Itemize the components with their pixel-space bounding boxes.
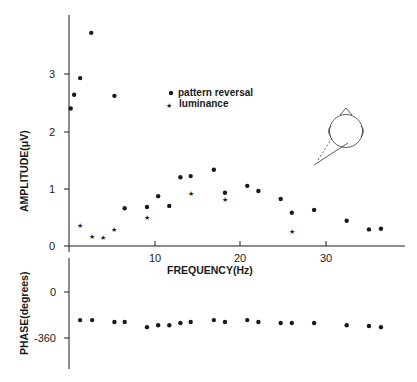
pattern-reversal-point	[223, 191, 227, 195]
x-tick-10: 10	[149, 252, 161, 264]
amp-tick-3: 3	[49, 68, 55, 80]
pattern-reversal-point	[256, 189, 260, 193]
head-electrode-diagram-icon	[314, 108, 364, 165]
phase-point	[278, 321, 282, 325]
pattern-reversal-point	[78, 76, 82, 80]
pattern-reversal-point	[156, 194, 160, 198]
luminance-point: ★	[111, 226, 117, 233]
pattern-reversal-point	[167, 204, 171, 208]
phase-point	[178, 321, 182, 325]
luminance-point: ★	[144, 214, 150, 221]
phase-point	[379, 325, 383, 329]
amp-tick-2: 2	[49, 126, 55, 138]
pattern-reversal-point	[367, 227, 371, 231]
pattern-reversal-point	[278, 197, 282, 201]
pattern-reversal-point	[89, 31, 93, 35]
luminance-point: ★	[188, 190, 194, 197]
pattern-reversal-point	[212, 168, 216, 172]
phase-point	[123, 320, 127, 324]
amplitude-axes	[64, 15, 405, 252]
pattern-reversal-point	[312, 208, 316, 212]
phase-point	[188, 320, 192, 324]
phase-point	[312, 321, 316, 325]
phase-points	[78, 318, 383, 329]
amplitude-y-axis-label: AMPLITUDE(μV)	[18, 130, 30, 212]
phase-point	[156, 323, 160, 327]
pattern-reversal-point	[123, 206, 127, 210]
phase-point	[212, 318, 216, 322]
legend-dot-icon	[169, 91, 173, 95]
phase-point	[256, 320, 260, 324]
luminance-point: ★	[77, 222, 83, 229]
pattern-reversal-point	[344, 219, 348, 223]
phase-point	[245, 318, 249, 322]
phase-y-axis-label: PHASE(degrees)	[18, 272, 30, 355]
amp-tick-1: 1	[49, 183, 55, 195]
amplitude-points: ★★★★★★★★	[69, 31, 384, 242]
phase-point	[90, 318, 94, 322]
pattern-reversal-point	[379, 227, 383, 231]
pattern-reversal-point	[178, 175, 182, 179]
x-tick-20: 20	[234, 252, 246, 264]
luminance-point: ★	[289, 228, 295, 235]
phase-point	[344, 323, 348, 327]
pattern-reversal-point	[188, 174, 192, 178]
phase-point	[167, 323, 171, 327]
phase-tick-neg360: -360	[34, 332, 56, 344]
x-axis-label: FREQUENCY(Hz)	[167, 264, 253, 276]
frequency-response-chart: 3 2 1 0 10 20 30 FREQUENCY(Hz) AMPLITUDE…	[0, 0, 417, 382]
luminance-point: ★	[100, 234, 106, 241]
pattern-reversal-point	[245, 184, 249, 188]
luminance-point: ★	[222, 196, 228, 203]
legend-luminance: luminance	[179, 98, 229, 109]
phase-axes	[64, 258, 69, 369]
luminance-point: ★	[89, 233, 95, 240]
phase-point	[290, 321, 294, 325]
phase-point	[223, 320, 227, 324]
phase-point	[145, 325, 149, 329]
pattern-reversal-point	[72, 93, 76, 97]
legend-pattern-reversal: pattern reversal	[178, 87, 253, 98]
pattern-reversal-point	[145, 205, 149, 209]
legend: pattern reversal ★ luminance	[166, 87, 253, 109]
legend-star-icon: ★	[166, 102, 172, 109]
pattern-reversal-point	[112, 94, 116, 98]
phase-point	[367, 324, 371, 328]
amp-tick-0: 0	[49, 240, 55, 252]
pattern-reversal-point	[69, 106, 73, 110]
pattern-reversal-point	[290, 211, 294, 215]
phase-tick-0: 0	[50, 286, 56, 298]
x-tick-30: 30	[320, 252, 332, 264]
phase-point	[112, 320, 116, 324]
phase-point	[78, 318, 82, 322]
